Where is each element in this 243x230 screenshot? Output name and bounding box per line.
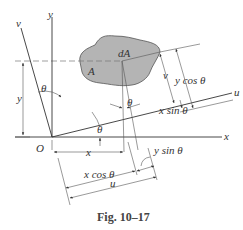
label-y-dim: y [16, 92, 22, 104]
label-v-top: v [16, 17, 21, 29]
label-ycos: y cos θ [174, 74, 206, 86]
label-theta-mid: θ [127, 96, 133, 108]
v-axis [21, 28, 52, 137]
label-x-axis: x [223, 130, 229, 142]
label-region-A: A [87, 65, 95, 77]
u-axis [52, 93, 232, 137]
label-xsin: x sin θ [158, 104, 188, 116]
u-ext-origin [58, 158, 70, 205]
label-v-dim: v [163, 69, 168, 81]
label-dA: dA [118, 47, 131, 59]
ext-line-lower [180, 100, 233, 112]
ysin-dimension [137, 166, 154, 171]
figure-caption: Fig. 10–17 [97, 210, 150, 224]
label-origin: O [36, 142, 44, 154]
label-y-axis: y [47, 8, 53, 20]
label-ysin: y sin θ [153, 144, 183, 156]
moment-of-inertia-diagram: v y x u O A dA θ θ θ y x v y cos θ x sin… [0, 0, 243, 230]
theta-arc-left2 [52, 92, 61, 97]
theta-arc-ysin [141, 157, 150, 166]
u-ext-mid [128, 142, 137, 175]
label-theta-left: θ [41, 82, 47, 94]
label-theta-origin: θ [97, 123, 103, 135]
theta-arc-mid [110, 104, 122, 108]
label-x-dim: x [85, 146, 91, 158]
ext-line-top [160, 44, 200, 52]
label-u-axis: u [234, 86, 240, 98]
label-u-dim: u [110, 177, 116, 189]
